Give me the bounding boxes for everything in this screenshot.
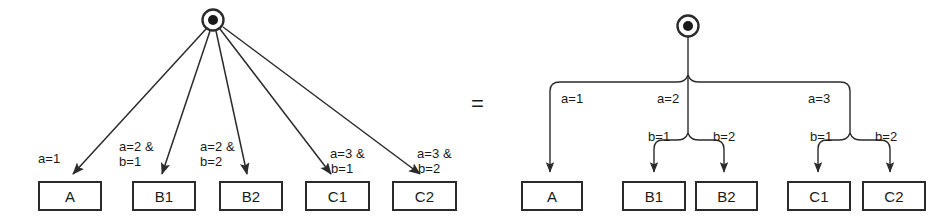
left-edge-label-c1-line2: b=1 bbox=[331, 162, 353, 177]
left-node-b2[interactable]: B2 bbox=[219, 181, 283, 211]
left-edge-label-c2-line2: b=2 bbox=[418, 162, 440, 177]
left-edge-label-c2-line1: a=3 & bbox=[417, 147, 452, 162]
left-edge-to-c2 bbox=[223, 27, 420, 174]
right-edge-label-a2: a=2 bbox=[657, 92, 679, 107]
right-node-b2[interactable]: B2 bbox=[695, 181, 758, 211]
left-node-b1[interactable]: B1 bbox=[132, 181, 196, 211]
right-edge-label-a3-b2: b=2 bbox=[875, 130, 897, 145]
right-edge-label-a1: a=1 bbox=[561, 92, 583, 107]
right-node-c1[interactable]: C1 bbox=[787, 181, 851, 211]
left-node-a[interactable]: A bbox=[38, 181, 102, 211]
right-edge-label-a3: a=3 bbox=[808, 92, 830, 107]
diagram-canvas: = a=1 a=2 & b=1 a=2 & b=2 a=3 & b=1 a=3 … bbox=[0, 0, 949, 223]
left-edge-label-a: a=1 bbox=[38, 152, 60, 167]
right-edge-a1 bbox=[550, 75, 688, 172]
left-node-c2[interactable]: C2 bbox=[392, 181, 457, 211]
right-root-node-icon bbox=[678, 16, 699, 37]
equality-symbol: = bbox=[471, 93, 484, 115]
right-graph-edges bbox=[550, 16, 890, 173]
left-edge-label-b1-line1: a=2 & bbox=[119, 140, 154, 155]
left-root-node-icon bbox=[203, 10, 224, 31]
left-edge-label-b1-line2: b=1 bbox=[119, 155, 141, 170]
right-edge-label-a2-b2: b=2 bbox=[713, 130, 735, 145]
left-edge-label-b2-line1: a=2 & bbox=[200, 140, 235, 155]
right-node-c2[interactable]: C2 bbox=[862, 181, 926, 211]
right-edge-label-a3-b1: b=1 bbox=[810, 130, 832, 145]
right-edge-label-a2-b1: b=1 bbox=[648, 130, 670, 145]
left-edge-label-c1-line1: a=3 & bbox=[330, 147, 365, 162]
left-edge-label-b2-line2: b=2 bbox=[200, 155, 222, 170]
left-node-c1[interactable]: C1 bbox=[305, 181, 370, 211]
left-edge-to-c1 bbox=[220, 29, 331, 174]
right-node-b1[interactable]: B1 bbox=[622, 181, 686, 211]
right-node-a[interactable]: A bbox=[521, 181, 583, 211]
